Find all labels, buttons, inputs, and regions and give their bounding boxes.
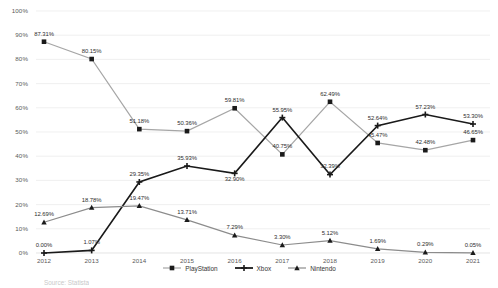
x-axis-tick-label: 2014 — [119, 257, 159, 264]
x-axis-tick-label: 2016 — [215, 257, 255, 264]
data-label: 80.15% — [72, 48, 112, 54]
data-point-playstation — [328, 99, 333, 104]
chart-legend: PlayStationXboxNintendo — [0, 264, 498, 273]
y-axis-tick-label: 30% — [2, 176, 28, 183]
data-label: 18.78% — [72, 197, 112, 203]
legend-label: Xbox — [257, 265, 272, 272]
y-axis-tick-label: 70% — [2, 80, 28, 87]
data-point-playstation — [423, 148, 428, 153]
data-label: 0.05% — [453, 242, 493, 248]
y-axis-tick-label: 10% — [2, 225, 28, 232]
data-point-playstation — [185, 129, 190, 134]
data-label: 0.00% — [24, 242, 64, 248]
y-axis-tick-label: 100% — [2, 7, 28, 14]
data-point-xbox — [422, 112, 428, 118]
data-point-playstation — [471, 138, 476, 143]
legend-label: PlayStation — [185, 265, 217, 272]
data-point-playstation — [375, 141, 380, 146]
data-label: 19.47% — [119, 195, 159, 201]
data-label: 62.49% — [310, 91, 350, 97]
data-label: 50.36% — [167, 120, 207, 126]
data-label: 12.69% — [24, 211, 64, 217]
data-label: 46.65% — [453, 129, 493, 135]
data-label: 1.07% — [72, 239, 112, 245]
x-axis-tick-label: 2012 — [24, 257, 64, 264]
legend-item-xbox[interactable]: Xbox — [234, 264, 272, 273]
data-label: 42.48% — [405, 139, 445, 145]
x-axis-tick-label: 2018 — [310, 257, 350, 264]
data-label: 57.23% — [405, 104, 445, 110]
x-axis-tick-label: 2019 — [358, 257, 398, 264]
data-point-xbox — [470, 121, 476, 127]
data-point-playstation — [280, 152, 285, 157]
x-axis-tick-label: 2017 — [262, 257, 302, 264]
series-line-playstation — [44, 42, 473, 155]
data-label: 1.69% — [358, 238, 398, 244]
x-axis-tick-label: 2013 — [72, 257, 112, 264]
data-label: 40.75% — [262, 143, 302, 149]
data-label: 55.95% — [262, 107, 302, 113]
data-label: 29.35% — [119, 171, 159, 177]
y-axis-tick-label: 40% — [2, 152, 28, 159]
data-point-playstation — [232, 106, 237, 111]
data-point-xbox — [41, 250, 47, 256]
data-label: 32.90% — [215, 176, 255, 182]
y-axis-tick-label: 20% — [2, 201, 28, 208]
data-label: 35.93% — [167, 155, 207, 161]
data-label: 13.71% — [167, 209, 207, 215]
data-point-playstation — [42, 39, 47, 44]
data-point-xbox — [184, 163, 190, 169]
legend-marker-square-icon — [162, 264, 182, 273]
x-axis-tick-label: 2015 — [167, 257, 207, 264]
x-axis-tick-label: 2021 — [453, 257, 493, 264]
data-label: 53.30% — [453, 113, 493, 119]
data-label: 52.64% — [358, 115, 398, 121]
y-axis-tick-label: 60% — [2, 104, 28, 111]
y-axis-tick-label: 50% — [2, 128, 28, 135]
data-point-playstation — [89, 57, 94, 62]
series-lines — [44, 42, 473, 253]
data-label: 0.29% — [405, 241, 445, 247]
data-label: 45.47% — [358, 132, 398, 138]
data-label: 32.39% — [310, 163, 350, 169]
legend-marker-cross-icon — [234, 264, 254, 273]
data-label: 5.12% — [310, 230, 350, 236]
y-axis-tick-label: 80% — [2, 55, 28, 62]
data-point-playstation — [137, 127, 142, 132]
x-axis-tick-label: 2020 — [405, 257, 445, 264]
legend-item-nintendo[interactable]: Nintendo — [287, 264, 336, 273]
legend-marker-triangle-icon — [287, 264, 307, 273]
data-label: 51.18% — [119, 118, 159, 124]
legend-item-playstation[interactable]: PlayStation — [162, 264, 217, 273]
data-label: 59.81% — [215, 97, 255, 103]
data-label: 3.30% — [262, 234, 302, 240]
y-axis-tick-label: 0% — [2, 249, 28, 256]
legend-label: Nintendo — [310, 265, 336, 272]
line-chart: 0%10%20%30%40%50%60%70%80%90%100% 201220… — [0, 0, 498, 288]
data-label: 7.29% — [215, 224, 255, 230]
source-caption: Source: Statista — [44, 279, 89, 288]
series-line-xbox — [44, 115, 473, 253]
data-label: 87.31% — [24, 31, 64, 37]
